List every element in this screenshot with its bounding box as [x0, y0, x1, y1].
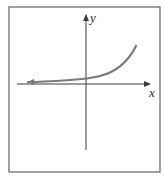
exponential-curve — [28, 46, 136, 82]
x-axis-label: x — [148, 85, 155, 100]
graph-frame — [9, 7, 160, 172]
y-axis-label: y — [88, 10, 96, 25]
exponential-graph: y x — [0, 0, 165, 179]
